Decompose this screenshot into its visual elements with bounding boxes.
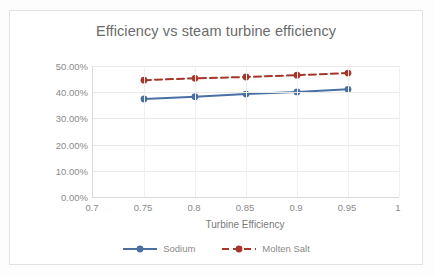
chart-container: Efficiency vs steam turbine efficiency T… <box>9 10 423 265</box>
y-axis-tick-label: 20.00% <box>56 139 88 150</box>
chart-legend: SodiumMolten Salt <box>10 243 422 254</box>
y-axis-tick-label: 30.00% <box>56 113 88 124</box>
x-axis-tick-labels: 0.70.750.80.850.90.951 <box>92 202 398 216</box>
gridline-vertical <box>195 66 196 197</box>
x-axis-tick-label: 0.85 <box>236 202 255 213</box>
x-axis-tick-label: 1 <box>395 202 400 213</box>
x-axis-tick-label: 0.7 <box>85 202 98 213</box>
legend-item-molten-salt[interactable]: Molten Salt <box>221 243 310 254</box>
y-axis-tick-label: 50.00% <box>56 61 88 72</box>
legend-key-icon <box>221 244 257 254</box>
y-axis-title: Thermodynamic Efficiency <box>0 103 2 243</box>
x-axis-title: Turbine Efficiency <box>92 219 398 230</box>
legend-key-icon <box>122 244 158 254</box>
gridline-vertical <box>348 66 349 197</box>
x-axis-tick-label: 0.75 <box>134 202 153 213</box>
x-axis-tick-label: 0.9 <box>289 202 302 213</box>
y-axis-tick-label: 40.00% <box>56 87 88 98</box>
y-axis-tick-labels: 0.00%10.00%20.00%30.00%40.00%50.00% <box>40 57 88 197</box>
legend-item-sodium[interactable]: Sodium <box>122 243 195 254</box>
y-axis-tick-label: 0.00% <box>61 192 88 203</box>
gridline-vertical <box>144 66 145 197</box>
x-axis-tick-label: 0.8 <box>187 202 200 213</box>
gridline-vertical <box>399 66 400 197</box>
chart-title: Efficiency vs steam turbine efficiency <box>10 23 422 39</box>
screenshot-root: Efficiency vs steam turbine efficiency T… <box>0 0 435 276</box>
gridline-vertical <box>246 66 247 197</box>
plot-area <box>92 57 398 197</box>
plot-inner <box>92 66 399 198</box>
y-axis-tick-label: 10.00% <box>56 165 88 176</box>
x-axis-tick-label: 0.95 <box>338 202 357 213</box>
legend-item-label: Molten Salt <box>262 243 310 254</box>
gridline-vertical <box>297 66 298 197</box>
legend-item-label: Sodium <box>163 243 195 254</box>
